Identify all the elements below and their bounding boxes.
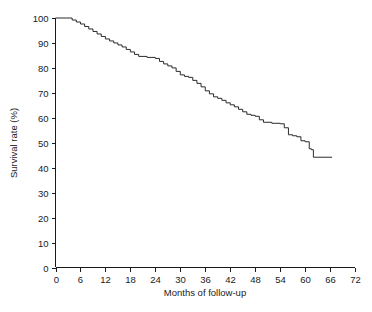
y-tick-label: 80: [38, 63, 49, 74]
y-tick-label: 70: [38, 88, 49, 99]
x-tick-label: 36: [200, 274, 211, 285]
y-tick-label: 90: [38, 38, 49, 49]
y-tick-label: 40: [38, 163, 49, 174]
y-axis-title: Survival rate (%): [8, 108, 19, 178]
x-tick-label: 54: [275, 274, 286, 285]
y-tick-label: 100: [33, 13, 49, 24]
x-tick-label: 0: [54, 274, 59, 285]
x-tick-label: 42: [225, 274, 236, 285]
x-tick-label: 48: [250, 274, 261, 285]
y-tick-label: 30: [38, 188, 49, 199]
x-tick-label: 12: [100, 274, 111, 285]
y-tick-label: 60: [38, 113, 49, 124]
y-tick-label: 20: [38, 213, 49, 224]
x-tick-label: 30: [175, 274, 186, 285]
y-tick-label: 50: [38, 138, 49, 149]
x-tick-label: 6: [78, 274, 83, 285]
x-tick-label: 72: [350, 274, 361, 285]
y-tick-label: 0: [43, 263, 48, 274]
x-axis-title: Months of follow-up: [164, 287, 246, 298]
x-tick-label: 66: [325, 274, 336, 285]
x-tick-label: 18: [125, 274, 136, 285]
survival-plot: 0102030405060708090100 Survival rate (%)…: [0, 0, 372, 312]
y-tick-label: 10: [38, 238, 49, 249]
x-tick-label: 60: [300, 274, 311, 285]
x-tick-label: 24: [150, 274, 161, 285]
survival-chart-figure: 0102030405060708090100 Survival rate (%)…: [0, 0, 372, 312]
